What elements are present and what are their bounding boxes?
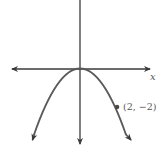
- parabola-graph: x (2, −2): [0, 0, 161, 148]
- point-marker: [115, 105, 120, 110]
- curve-arrow-right: [126, 134, 132, 140]
- x-axis-label: x: [150, 71, 156, 82]
- curve-arrow-left: [33, 134, 35, 140]
- point-label: (2, −2): [123, 101, 157, 112]
